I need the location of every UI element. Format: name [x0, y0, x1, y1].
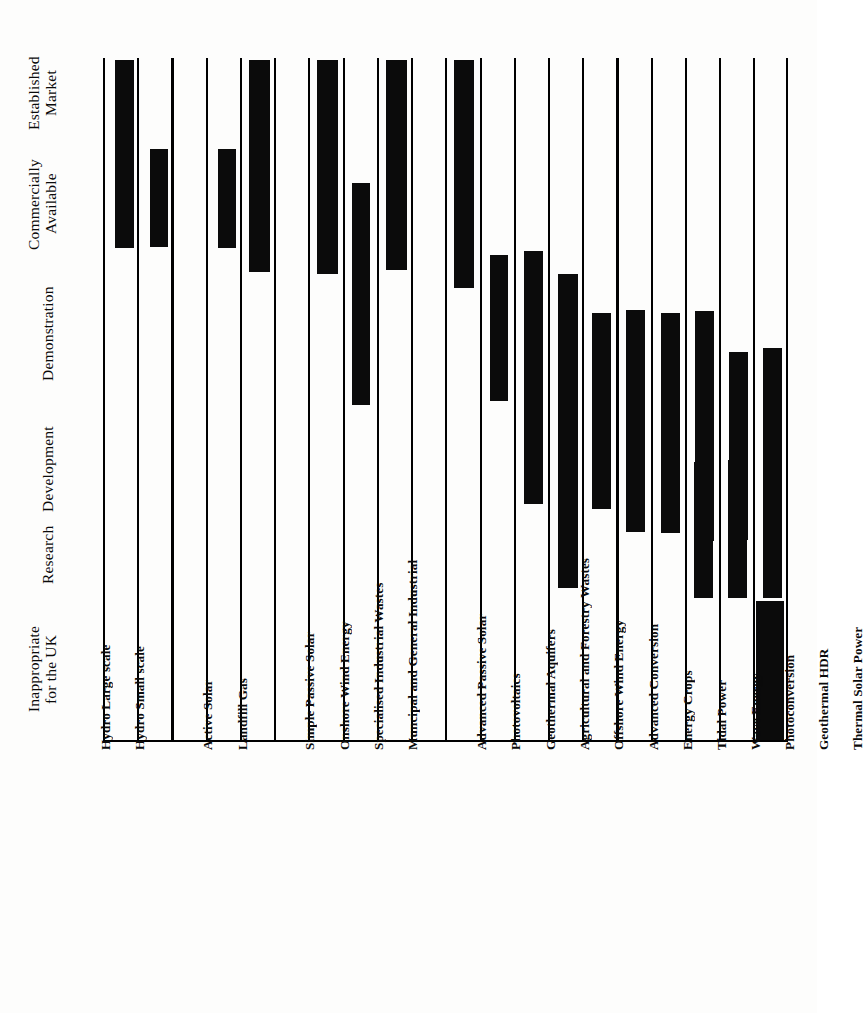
bar-advanced-conversion — [661, 313, 680, 533]
tech-label-active-solar: Active Solar — [201, 664, 214, 750]
bar-advanced-passive-solar — [490, 255, 508, 401]
stage-label-inappropriate: Inappropriate for the UK — [26, 593, 59, 745]
tech-label-simple-passive-solar: Simple Passive Solar — [303, 610, 316, 750]
bar-hydro-small-scale — [150, 149, 168, 247]
bar-landfill-gas — [249, 60, 270, 272]
bar-specialised-industrial-wastes — [386, 60, 407, 270]
gridline — [274, 58, 276, 742]
gridline — [719, 58, 721, 742]
tech-label-landfill-gas: Landfill Gas — [236, 664, 249, 750]
tech-label-offshore-wind-energy: Offshore Wind Energy — [612, 610, 625, 750]
gridline — [171, 58, 173, 742]
bar-wave-energy — [763, 348, 782, 598]
category-axis-labels: Hydro Large scale Hydro Small scale Acti… — [103, 748, 793, 988]
tech-label-advanced-conversion: Advanced Conversion — [647, 612, 660, 750]
tech-label-tidal-power: Tidal Power — [715, 672, 728, 750]
tech-label-photovoltaics: Photovoltaics — [509, 654, 522, 750]
stage-label-demonstration: Demonstration — [40, 256, 57, 411]
gridline — [514, 58, 516, 742]
tech-label-thermal-solar-power: Thermal Solar Power — [851, 622, 864, 750]
bar-tidal-power — [729, 352, 748, 540]
bar-energy-crops — [695, 311, 714, 541]
gridline — [240, 58, 242, 742]
gridline — [753, 58, 755, 742]
tech-label-hydro-large-scale: Hydro Large scale — [99, 632, 112, 750]
bar-hydro-large-scale — [115, 60, 134, 248]
bar-photovoltaics — [524, 251, 543, 504]
tech-label-geothermal-aquifers: Geothermal Aquifers — [544, 614, 557, 750]
tech-label-geothermal-hdr: Geothermal HDR — [817, 646, 830, 750]
bar-active-solar — [218, 149, 236, 248]
gridline — [685, 58, 687, 742]
bar-agricultural-and-forestry-wastes — [592, 313, 611, 509]
bar-geothermal-aquifers — [558, 274, 578, 588]
tech-label-muncipal-general: Muncipal and General Industrial — [406, 540, 419, 750]
tech-label-agricultural-forestry: Agricultural and Forestry Wastes — [578, 536, 591, 750]
tech-label-hydro-small-scale: Hydro Small scale — [133, 632, 146, 750]
stage-label-research: Research — [40, 505, 57, 605]
bar-simple-passive-solar — [317, 60, 338, 274]
tech-label-onshore-wind-energy: Onshore Wind Energy — [338, 610, 351, 750]
gridline — [206, 58, 208, 742]
tech-label-advanced-passive-solar: Advanced Passive Solar — [475, 602, 488, 750]
bar-onshore-wind-energy — [352, 183, 370, 405]
gridline — [445, 58, 447, 742]
tech-label-energy-crops: Energy Crops — [681, 664, 694, 750]
bar-offshore-wind-energy — [626, 310, 645, 532]
tech-label-wave-energy: Wave Energy — [749, 668, 762, 750]
plot-area — [103, 58, 788, 742]
tech-label-photoconversion: Photoconversion — [783, 646, 796, 750]
stage-axis-labels: Established Market Commercially Availabl… — [0, 0, 103, 745]
tech-label-specialised-industrial: Specialised Industrial Wastes — [372, 554, 385, 750]
bar-muncipal-and-general-industrial — [454, 60, 474, 288]
